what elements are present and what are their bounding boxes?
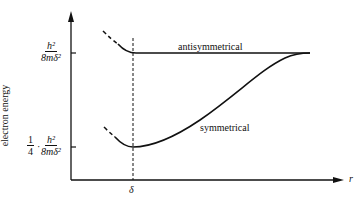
x-axis-arrow-icon (333, 177, 344, 183)
lower-level-label: h² 8mδ² (41, 134, 61, 157)
upper-denominator: 8mδ² (41, 52, 61, 63)
y-axis-label: electron energy (0, 85, 10, 147)
lower-denominator: 8mδ² (41, 146, 61, 157)
y-axis-arrow-icon (68, 11, 74, 22)
symmetric-dashed-segment (104, 127, 115, 137)
upper-numerator: h² (45, 40, 57, 52)
diagram-canvas: electron energy h² 8mδ² 1 4 · h² 8mδ² an… (0, 0, 364, 203)
x-axis-label: r (349, 173, 353, 184)
delta-tick-label: δ (129, 184, 134, 195)
upper-level-label: h² 8mδ² (41, 40, 61, 63)
quarter-denominator: 4 (28, 146, 33, 157)
quarter-fraction: 1 4 (27, 134, 34, 157)
symmetrical-label: symmetrical (200, 122, 249, 133)
lower-numerator: h² (45, 134, 57, 146)
quarter-numerator: 1 (27, 134, 34, 146)
antisymmetric-dashed-segment (103, 31, 118, 44)
diagram-graphics (0, 0, 364, 203)
antisymmetrical-label: antisymmetrical (178, 41, 242, 52)
multiply-dot: · (37, 141, 40, 152)
